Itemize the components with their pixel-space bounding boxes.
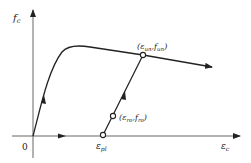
- unloading-point-label: (εun,fun): [137, 42, 167, 52]
- point-unloading: [140, 52, 145, 57]
- stress-strain-diagram: fc 0 εc εpl (εun,fun) (εro,fro): [0, 0, 251, 163]
- x-axis: [12, 134, 240, 139]
- envelope-curve: [33, 46, 212, 136]
- point-reloading: [110, 113, 115, 118]
- x-axis-mid-arrow-icon: [58, 134, 66, 139]
- origin-label: 0: [22, 142, 28, 152]
- reloading-point-label: (εro,fro): [119, 113, 147, 123]
- loading-arrow-icon: [41, 95, 46, 104]
- point-plastic-strain: [100, 132, 105, 137]
- reload-line: [103, 55, 143, 135]
- plastic-strain-label: εpl: [96, 141, 107, 153]
- y-axis-label: fc: [12, 12, 21, 25]
- x-axis-label: εc: [221, 141, 230, 152]
- reloading-arrow-icon: [121, 91, 126, 100]
